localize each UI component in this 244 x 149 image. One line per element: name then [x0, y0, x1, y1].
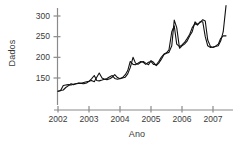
series-line-ajustado [58, 22, 226, 91]
plot-area [0, 0, 244, 149]
series-line-observado [58, 6, 226, 92]
chart-figure: Dados Ano 150200250300 20022003200420052… [0, 0, 244, 149]
